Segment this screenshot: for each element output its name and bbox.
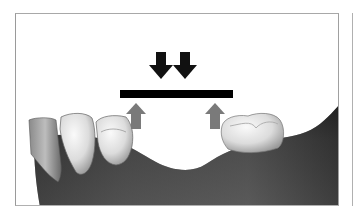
down-arrow-right — [173, 52, 197, 79]
down-arrow-left — [149, 52, 173, 79]
bridge-bar — [120, 90, 233, 98]
illustration-frame — [15, 13, 339, 206]
tooth-abutment-right — [221, 113, 283, 152]
dental-bridge-illustration — [16, 14, 339, 206]
